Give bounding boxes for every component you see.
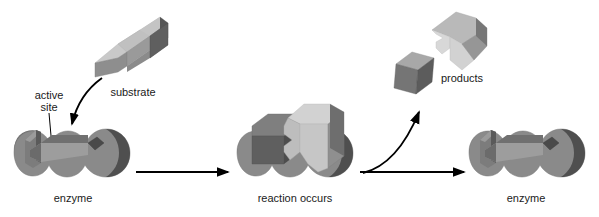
active-site-label-line2: site bbox=[40, 101, 57, 113]
active-site-label-line1: active bbox=[35, 89, 64, 101]
substrate-label: substrate bbox=[110, 86, 155, 98]
stage-3-group: enzyme bbox=[469, 129, 585, 204]
enzyme-label-right: enzyme bbox=[507, 192, 546, 204]
enzyme-label-left: enzyme bbox=[54, 192, 93, 204]
arrow-products-release bbox=[363, 112, 419, 173]
enzyme-action-diagram: active site substrate enzyme bbox=[0, 0, 599, 217]
arrow-substrate-to-active-site bbox=[72, 78, 102, 124]
enzyme-shape-right bbox=[469, 129, 585, 177]
stage-1-group: active site substrate enzyme bbox=[14, 17, 168, 204]
stage-2-group: reaction occurs bbox=[237, 104, 353, 204]
reaction-occurs-label: reaction occurs bbox=[258, 192, 333, 204]
diagram-canvas: active site substrate enzyme bbox=[0, 0, 599, 217]
product-cube-shape bbox=[394, 52, 434, 94]
enzyme-substrate-complex-shape bbox=[237, 104, 353, 177]
enzyme-shape-left bbox=[14, 129, 130, 177]
products-label: products bbox=[441, 72, 484, 84]
product-wedge-shape bbox=[432, 12, 487, 70]
substrate-shape bbox=[95, 17, 168, 77]
products-group: products bbox=[394, 12, 487, 94]
